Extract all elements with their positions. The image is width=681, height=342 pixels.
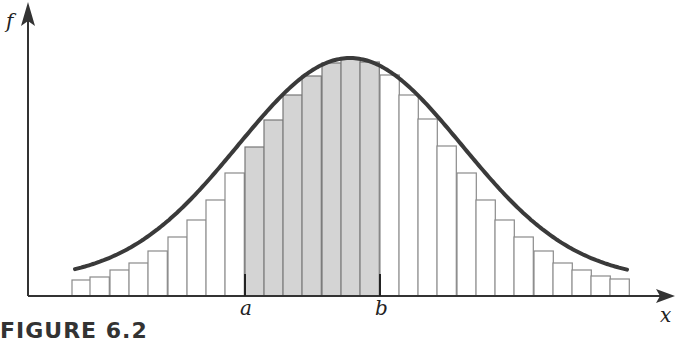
bar	[110, 270, 129, 296]
bar	[610, 279, 629, 296]
bar	[457, 173, 476, 296]
bar	[534, 251, 553, 296]
bar	[380, 75, 399, 296]
interval-end-label: b	[375, 296, 388, 320]
bar	[476, 200, 495, 296]
bar	[514, 237, 533, 296]
shaded-bar	[245, 147, 264, 296]
bar	[572, 270, 591, 296]
bar	[495, 220, 514, 296]
bar	[129, 263, 148, 296]
bar	[591, 276, 610, 296]
bar	[225, 173, 244, 296]
bar	[168, 237, 187, 296]
bar	[72, 280, 91, 296]
interval-start-label: a	[240, 296, 252, 320]
shaded-bar	[360, 62, 379, 296]
figure-caption: FIGURE 6.2	[0, 318, 148, 342]
bar	[418, 119, 437, 296]
shaded-bar	[302, 76, 321, 296]
shaded-bar	[283, 95, 302, 296]
bar	[90, 277, 109, 296]
bar	[148, 251, 167, 296]
x-axis-label: x	[660, 303, 671, 327]
bar	[187, 220, 206, 296]
shaded-bar	[322, 63, 341, 296]
bar	[553, 263, 572, 296]
bar	[399, 95, 418, 296]
histogram-bars	[72, 58, 629, 296]
shaded-bar	[341, 58, 360, 296]
y-axis-label: f	[4, 9, 17, 33]
bar	[206, 200, 225, 296]
bar	[437, 146, 456, 296]
shaded-bar	[264, 120, 283, 296]
